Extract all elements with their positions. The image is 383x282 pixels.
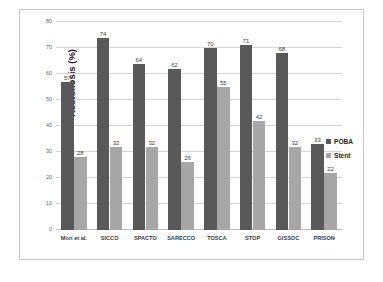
bar-poba: 64 <box>133 64 146 230</box>
bar-value-label: 70 <box>207 41 214 47</box>
bar-group: 3322PRISON <box>306 22 342 230</box>
bar-stent: 22 <box>324 173 337 230</box>
x-axis-tick-label: TOSCA <box>207 235 226 241</box>
x-axis-tick-label: SICCO <box>101 235 119 241</box>
legend-label: Stent <box>334 152 350 159</box>
bar-value-label: 28 <box>77 150 84 156</box>
bar-value-label: 33 <box>314 137 321 143</box>
bar-stent: 26 <box>181 162 194 230</box>
legend-item-poba[interactable]: POBA <box>326 137 374 145</box>
x-axis-tick-label: STOP <box>245 235 260 241</box>
bar-group: 5728Mori et al. <box>56 22 92 230</box>
x-axis-tick-label: SARECCO <box>167 235 195 241</box>
chart-plot-wrapper: Restenosis (%) 01020304050607080 5728Mor… <box>20 10 365 261</box>
bar-stent: 55 <box>217 87 230 230</box>
bar-poba: 74 <box>97 38 110 230</box>
bar-value-label: 71 <box>243 38 250 44</box>
legend-swatch-icon <box>326 139 331 144</box>
bar-value-label: 22 <box>327 166 334 172</box>
y-axis-tick-label: 10 <box>46 200 52 206</box>
y-axis-tick-label: 40 <box>46 122 52 128</box>
y-axis-tick-label: 20 <box>46 174 52 180</box>
bar-poba: 57 <box>61 82 74 230</box>
y-axis-tick-label: 0 <box>49 226 52 232</box>
legend-item-stent[interactable]: Stent <box>326 151 374 159</box>
y-axis-tick-label: 60 <box>46 70 52 76</box>
bar-value-label: 55 <box>220 80 227 86</box>
x-axis-tick-label: GISSOC <box>277 235 299 241</box>
bar-group: 7432SICCO <box>92 22 128 230</box>
chart-frame: Restenosis (%) 01020304050607080 5728Mor… <box>19 9 364 260</box>
y-axis-tick-label: 80 <box>46 18 52 24</box>
bar-stent: 32 <box>146 147 159 230</box>
bar-stent: 42 <box>253 121 266 230</box>
bar-poba: 33 <box>311 144 324 230</box>
legend-label: POBA <box>334 138 353 145</box>
x-axis-tick-label: Mori et al. <box>61 235 87 241</box>
bar-poba: 62 <box>168 69 181 230</box>
bar-value-label: 74 <box>100 31 107 37</box>
bar-value-label: 26 <box>184 155 191 161</box>
x-axis-tick-label: PRISON <box>313 235 334 241</box>
bar-value-label: 57 <box>64 75 71 81</box>
bar-stent: 32 <box>289 147 302 230</box>
y-axis-tick-label: 70 <box>46 44 52 50</box>
chart-legend: POBAStent <box>326 137 374 165</box>
bar-value-label: 32 <box>113 140 120 146</box>
bar-group: 6832GISSOC <box>271 22 307 230</box>
y-axis-tick-label: 50 <box>46 96 52 102</box>
bar-value-label: 42 <box>256 114 263 120</box>
x-axis-tick-label: SPACTO <box>134 235 157 241</box>
bar-value-label: 62 <box>171 62 178 68</box>
bar-stent: 32 <box>110 147 123 230</box>
bar-stent: 28 <box>74 157 87 230</box>
bar-value-label: 64 <box>136 57 143 63</box>
plot-area: 01020304050607080 5728Mori et al.7432SIC… <box>56 22 342 230</box>
bar-group: 6432SPACTO <box>128 22 164 230</box>
bar-poba: 70 <box>204 48 217 230</box>
bar-value-label: 32 <box>149 140 156 146</box>
bar-group: 7055TOSCA <box>199 22 235 230</box>
bar-value-label: 32 <box>292 140 299 146</box>
bar-poba: 71 <box>240 45 253 230</box>
bar-group: 7142STOP <box>235 22 271 230</box>
bar-poba: 68 <box>276 53 289 230</box>
bar-group: 6226SARECCO <box>163 22 199 230</box>
bar-series-layer: 5728Mori et al.7432SICCO6432SPACTO6226SA… <box>56 22 342 230</box>
legend-swatch-icon <box>326 153 331 158</box>
bar-value-label: 68 <box>279 46 286 52</box>
y-axis-tick-label: 30 <box>46 148 52 154</box>
